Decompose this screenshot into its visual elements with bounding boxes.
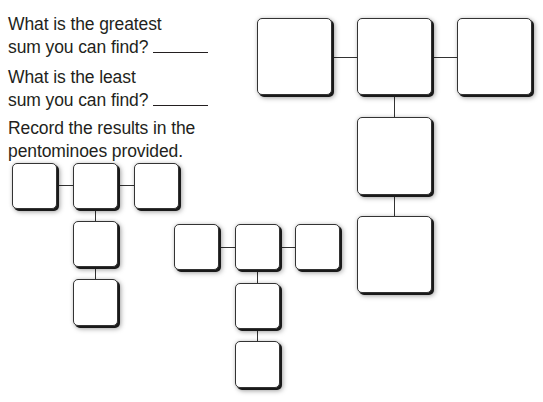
connector xyxy=(279,247,296,248)
greatest-question-line1: What is the greatest xyxy=(8,13,162,36)
least-sum-answer-blank[interactable] xyxy=(153,91,208,106)
instruction-line1: Record the results in the xyxy=(8,117,195,140)
pentomino-cell[interactable] xyxy=(357,117,432,195)
connector xyxy=(394,194,395,217)
connector xyxy=(117,185,135,186)
connector xyxy=(257,269,258,284)
pentomino-cell[interactable] xyxy=(174,224,219,270)
least-question-line1: What is the least xyxy=(8,66,136,89)
pentomino-cell[interactable] xyxy=(295,224,340,270)
greatest-sum-answer-blank[interactable] xyxy=(153,38,208,53)
pentomino-cell[interactable] xyxy=(73,221,118,267)
connector xyxy=(331,57,358,58)
pentomino-cell[interactable] xyxy=(235,283,280,329)
connector xyxy=(56,185,74,186)
greatest-question-line2: sum you can find? xyxy=(8,36,208,59)
pentomino-cell[interactable] xyxy=(357,18,432,95)
connector xyxy=(394,94,395,118)
connector xyxy=(431,57,458,58)
pentomino-cell[interactable] xyxy=(235,341,280,388)
connector xyxy=(218,247,236,248)
connector xyxy=(95,208,96,222)
instruction-line2: pentominoes provided. xyxy=(8,140,183,163)
least-question-line2: sum you can find? xyxy=(8,89,208,112)
pentomino-cell[interactable] xyxy=(357,216,432,293)
connector xyxy=(257,328,258,342)
connector xyxy=(95,266,96,280)
pentomino-cell[interactable] xyxy=(235,224,280,270)
pentomino-cell[interactable] xyxy=(73,163,118,209)
pentomino-cell[interactable] xyxy=(12,163,57,209)
pentomino-cell[interactable] xyxy=(73,279,118,326)
pentomino-cell[interactable] xyxy=(257,18,332,95)
pentomino-cell[interactable] xyxy=(134,163,179,209)
pentomino-cell[interactable] xyxy=(457,18,532,95)
